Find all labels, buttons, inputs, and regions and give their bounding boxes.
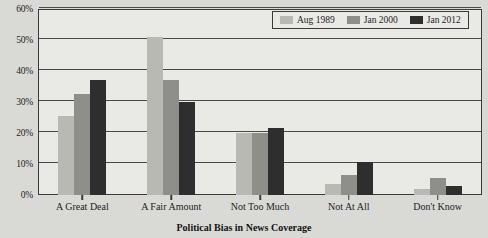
x-tick-label: Don't Know (413, 201, 462, 212)
y-tick-label: 60% (16, 4, 33, 14)
y-tick-label: 30% (16, 97, 33, 107)
x-tick (170, 195, 172, 200)
y-tick-label: 50% (16, 35, 33, 45)
y-tick-label: 40% (16, 66, 33, 76)
y-tick-label: 0% (21, 190, 33, 200)
gridline (39, 69, 481, 70)
legend-label: Jan 2000 (364, 15, 398, 25)
x-axis-title: Political Bias in News Coverage (0, 222, 488, 233)
y-tick-label: 10% (16, 159, 33, 169)
y-axis: 0%10%20%30%40%50%60% (0, 0, 38, 238)
chart-legend: Aug 1989Jan 2000Jan 2012 (272, 11, 469, 29)
gridline (39, 100, 481, 101)
y-tick-label: 20% (16, 128, 33, 138)
x-tick-label: Not Too Much (231, 201, 290, 212)
legend-entry: Jan 2012 (410, 15, 461, 25)
legend-entry: Aug 1989 (280, 15, 335, 25)
x-tick-label: A Great Deal (56, 201, 109, 212)
gridline (39, 7, 481, 8)
legend-label: Jan 2012 (427, 15, 461, 25)
legend-swatch (347, 16, 360, 24)
legend-swatch (280, 16, 293, 24)
plot-area (38, 9, 482, 195)
x-tick-label: Not At All (328, 201, 370, 212)
legend-swatch (410, 16, 423, 24)
legend-label: Aug 1989 (297, 15, 335, 25)
x-tick (259, 195, 261, 200)
x-tick (82, 195, 84, 200)
x-tick (348, 195, 350, 200)
x-tick (437, 195, 439, 200)
x-tick-label: A Fair Amount (141, 201, 201, 212)
legend-entry: Jan 2000 (347, 15, 398, 25)
gridline (39, 162, 481, 163)
gridline (39, 38, 481, 39)
bar-chart: 0%10%20%30%40%50%60% A Great DealA Fair … (0, 0, 488, 238)
gridline (39, 131, 481, 132)
